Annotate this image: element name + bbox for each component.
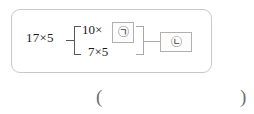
bottom-expression: 7×5 (88, 44, 108, 59)
worksheet-problem: 17×5 10× ㉠ 7×5 ㉡ ( ) (0, 0, 254, 114)
blank-box-a[interactable]: ㉠ (112, 22, 134, 43)
answer-close-paren: ) (240, 86, 246, 108)
left-bracket (74, 26, 81, 55)
top-expression: 10× (82, 22, 102, 37)
answer-open-paren: ( (96, 86, 102, 108)
blank-box-b[interactable]: ㉡ (160, 32, 192, 52)
right-connector-line (143, 41, 161, 42)
left-operand-expression: 17×5 (26, 31, 54, 45)
